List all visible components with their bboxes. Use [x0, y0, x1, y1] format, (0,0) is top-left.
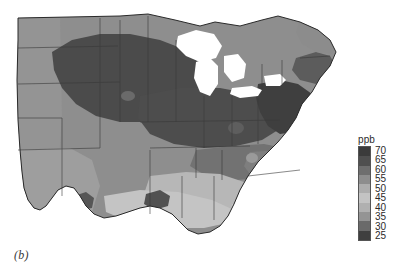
legend-swatch	[359, 212, 370, 221]
legend-swatch	[359, 166, 370, 175]
legend-swatch	[359, 184, 370, 193]
map-svg	[0, 0, 345, 265]
legend-swatch	[359, 203, 370, 212]
legend-swatch	[359, 156, 370, 165]
ozone-concentration-map	[0, 0, 345, 265]
region-light-pocket-midwest	[121, 91, 135, 101]
region-light-pocket-piedmont	[246, 153, 258, 163]
legend-swatch	[359, 193, 370, 202]
legend-tick-labels: 70656055504540353025	[373, 146, 407, 241]
legend-tick-label: 25	[375, 231, 386, 241]
legend-swatch	[359, 175, 370, 184]
panel-label: (b)	[14, 248, 29, 263]
figure-panel-b: (b) ppb 70656055504540353025	[0, 0, 414, 280]
legend-swatch	[359, 221, 370, 230]
legend-swatch	[359, 147, 370, 156]
legend-title: ppb	[358, 134, 375, 145]
legend-colorbar	[358, 146, 371, 241]
legend: ppb 70656055504540353025	[352, 134, 410, 246]
region-light-pocket-ohio	[228, 122, 244, 134]
legend-swatch	[359, 231, 370, 240]
